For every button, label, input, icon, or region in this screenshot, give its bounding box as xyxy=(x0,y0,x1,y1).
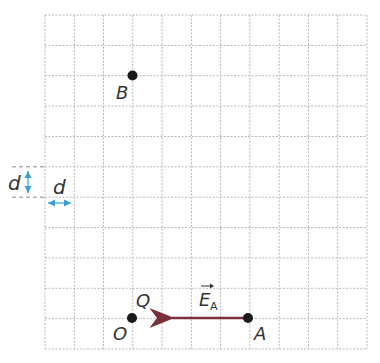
point-a-label: A xyxy=(253,323,266,344)
horizontal-d-label: d xyxy=(53,175,66,199)
vertical-d-label: d xyxy=(8,171,21,195)
point-o xyxy=(127,313,137,323)
vector-subscript: A xyxy=(210,300,218,313)
point-o-label: O xyxy=(113,323,127,344)
point-b-label: B xyxy=(116,82,128,103)
point-a xyxy=(243,313,253,323)
vector-label: E A xyxy=(199,284,218,314)
point-q-label: Q xyxy=(136,290,150,311)
diagram-canvas: d d B O Q E A A xyxy=(0,0,380,363)
point-b xyxy=(128,71,138,81)
scale-indicator: d d xyxy=(8,167,71,203)
